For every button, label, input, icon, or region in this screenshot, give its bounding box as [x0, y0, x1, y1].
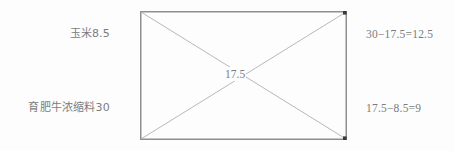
concentrate-parts-calc: 17.5−8.5=9: [366, 101, 421, 115]
marker-top-right-icon: [343, 11, 347, 15]
marker-bottom-right-icon: [343, 136, 347, 140]
corn-parts-calc: 30−17.5=12.5: [366, 27, 433, 41]
pearson-square-diagram: 玉米8.5 育肥牛浓缩料30 30−17.5=12.5 17.5−8.5=9 1…: [0, 0, 455, 151]
corn-label: 玉米8.5: [70, 27, 111, 41]
center-target-value: 17.5: [224, 67, 246, 81]
concentrate-label: 育肥牛浓缩料30: [28, 101, 110, 115]
